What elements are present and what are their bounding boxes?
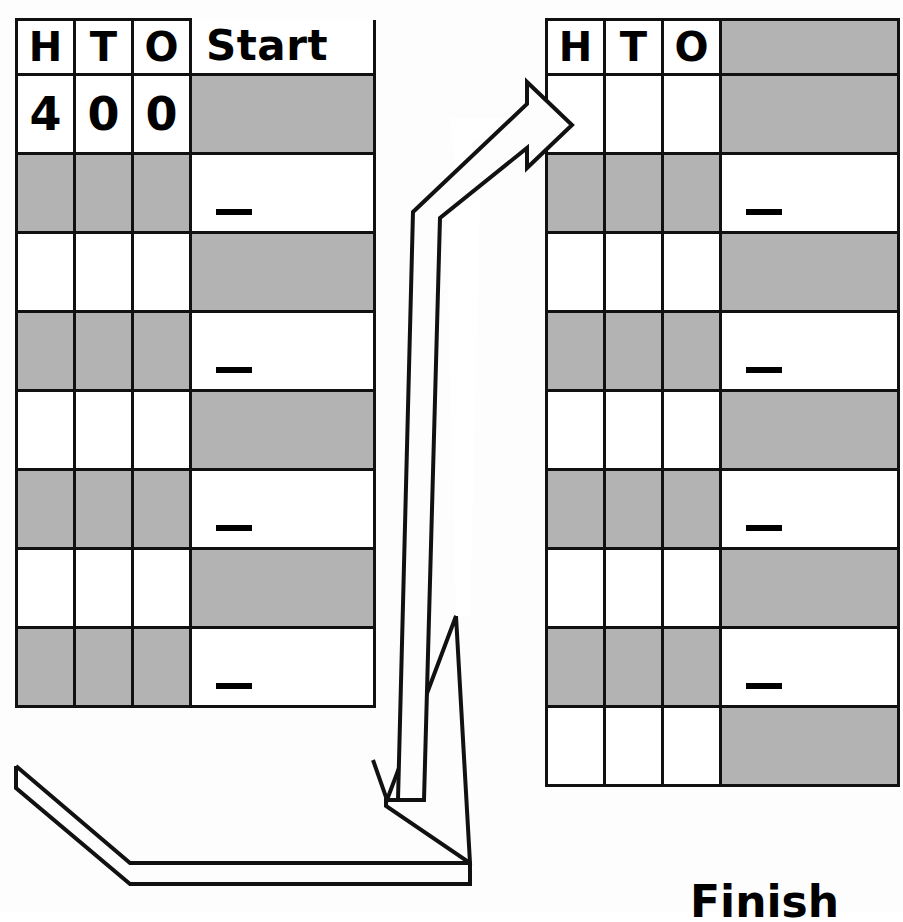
wide-cell-r4[interactable] xyxy=(191,312,375,391)
cell-o-r8[interactable] xyxy=(133,628,191,707)
minus-sign-icon xyxy=(746,525,782,531)
cell-t-r8[interactable] xyxy=(605,628,663,707)
wide-cell-r7[interactable] xyxy=(191,549,375,628)
cell-h-r1[interactable] xyxy=(547,75,605,154)
wide-cell-r2[interactable] xyxy=(721,154,899,233)
cell-h-r5[interactable] xyxy=(547,391,605,470)
cell-o-r3[interactable] xyxy=(663,233,721,312)
cell-h-r2[interactable] xyxy=(547,154,605,233)
dash-wrap xyxy=(192,471,373,547)
start-place-value-chart: HTOStart400 xyxy=(15,18,376,708)
wide-column-header-blank xyxy=(721,20,899,75)
cell-o-r3[interactable] xyxy=(133,233,191,312)
table-row xyxy=(547,470,899,549)
cell-h-r3[interactable] xyxy=(17,233,75,312)
cell-h-r5[interactable] xyxy=(17,391,75,470)
column-header-o: O xyxy=(133,20,191,75)
table-row xyxy=(547,233,899,312)
table-row xyxy=(547,154,899,233)
cell-o-r6[interactable] xyxy=(133,470,191,549)
table-row xyxy=(547,75,899,154)
wide-cell-r4[interactable] xyxy=(721,312,899,391)
minus-sign-icon xyxy=(746,209,782,215)
wide-cell-r1[interactable] xyxy=(191,75,375,154)
cell-h-r8[interactable] xyxy=(17,628,75,707)
cell-t-r3[interactable] xyxy=(605,233,663,312)
cell-o-r4[interactable] xyxy=(133,312,191,391)
wide-cell-r3[interactable] xyxy=(191,233,375,312)
table-row xyxy=(547,707,899,786)
cell-o-r2[interactable] xyxy=(133,154,191,233)
wide-cell-r1[interactable] xyxy=(721,75,899,154)
cell-h-r4[interactable] xyxy=(17,312,75,391)
cell-h-r3[interactable] xyxy=(547,233,605,312)
minus-sign-icon xyxy=(746,367,782,373)
cell-h-r7[interactable] xyxy=(547,549,605,628)
dash-wrap xyxy=(722,313,897,389)
cell-t-r6[interactable] xyxy=(75,470,133,549)
wide-cell-r8[interactable] xyxy=(191,628,375,707)
cell-o-r5[interactable] xyxy=(133,391,191,470)
cell-o-r1[interactable] xyxy=(663,75,721,154)
cell-t-r1[interactable] xyxy=(605,75,663,154)
table-row xyxy=(17,154,375,233)
cell-t-r1[interactable]: 0 xyxy=(75,75,133,154)
table-row xyxy=(547,312,899,391)
cell-h-r2[interactable] xyxy=(17,154,75,233)
dash-wrap xyxy=(722,629,897,705)
cell-o-r6[interactable] xyxy=(663,470,721,549)
wide-cell-r2[interactable] xyxy=(191,154,375,233)
table-row xyxy=(17,470,375,549)
cell-t-r4[interactable] xyxy=(75,312,133,391)
cell-o-r1[interactable]: 0 xyxy=(133,75,191,154)
finish-caption: Finish xyxy=(690,876,839,922)
finish-place-value-chart: HTO xyxy=(545,18,900,787)
cell-t-r9[interactable] xyxy=(605,707,663,786)
cell-h-r4[interactable] xyxy=(547,312,605,391)
column-header-h: H xyxy=(17,20,75,75)
cell-h-r8[interactable] xyxy=(547,628,605,707)
cell-o-r7[interactable] xyxy=(133,549,191,628)
cell-o-r5[interactable] xyxy=(663,391,721,470)
cell-t-r5[interactable] xyxy=(75,391,133,470)
cell-t-r7[interactable] xyxy=(605,549,663,628)
wide-cell-r9[interactable] xyxy=(721,707,899,786)
cell-t-r2[interactable] xyxy=(605,154,663,233)
wide-cell-r5[interactable] xyxy=(191,391,375,470)
column-header-t: T xyxy=(605,20,663,75)
table-row xyxy=(547,391,899,470)
cell-h-r1[interactable]: 4 xyxy=(17,75,75,154)
table-row xyxy=(17,628,375,707)
dash-wrap xyxy=(722,155,897,231)
minus-sign-icon xyxy=(216,367,252,373)
cell-h-r6[interactable] xyxy=(17,470,75,549)
cell-h-r6[interactable] xyxy=(547,470,605,549)
cell-t-r8[interactable] xyxy=(75,628,133,707)
cell-o-r9[interactable] xyxy=(663,707,721,786)
cell-t-r4[interactable] xyxy=(605,312,663,391)
cell-o-r2[interactable] xyxy=(663,154,721,233)
table-header-row: HTOStart xyxy=(17,20,375,75)
cell-o-r7[interactable] xyxy=(663,549,721,628)
wide-cell-r6[interactable] xyxy=(721,470,899,549)
wide-cell-r7[interactable] xyxy=(721,549,899,628)
wide-cell-r8[interactable] xyxy=(721,628,899,707)
dash-wrap xyxy=(722,471,897,547)
cell-o-r8[interactable] xyxy=(663,628,721,707)
cell-h-r7[interactable] xyxy=(17,549,75,628)
cell-h-r9[interactable] xyxy=(547,707,605,786)
table-row: 400 xyxy=(17,75,375,154)
column-header-h: H xyxy=(547,20,605,75)
table-row xyxy=(547,549,899,628)
cell-o-r4[interactable] xyxy=(663,312,721,391)
cell-t-r3[interactable] xyxy=(75,233,133,312)
cell-t-r2[interactable] xyxy=(75,154,133,233)
cell-t-r7[interactable] xyxy=(75,549,133,628)
cell-t-r6[interactable] xyxy=(605,470,663,549)
wide-cell-r5[interactable] xyxy=(721,391,899,470)
arrow-tail xyxy=(16,766,470,884)
wide-cell-r6[interactable] xyxy=(191,470,375,549)
cell-t-r5[interactable] xyxy=(605,391,663,470)
wide-cell-r3[interactable] xyxy=(721,233,899,312)
